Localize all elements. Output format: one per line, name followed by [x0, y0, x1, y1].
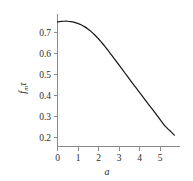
- y-tick-label: 0.5: [39, 70, 51, 80]
- x-tick-label: 3: [117, 153, 122, 163]
- chart-figure: 0.7 0.6 0.5 0.4 0.3 0.2 0 1 2 3 4 5 a fm…: [0, 0, 193, 181]
- line-chart: 0.7 0.6 0.5 0.4 0.3 0.2 0 1 2 3 4 5 a fm…: [0, 0, 193, 181]
- y-axis-title-tail: τ: [17, 82, 28, 86]
- x-tick-label: 5: [158, 153, 163, 163]
- y-tick-label: 0.6: [39, 49, 51, 59]
- y-tick-label: 0.2: [39, 133, 51, 143]
- x-tick-label: 1: [76, 153, 81, 163]
- y-tick-label: 0.4: [39, 91, 51, 101]
- y-tick-label: 0.3: [39, 112, 51, 122]
- y-tick-label: 0.7: [39, 28, 51, 38]
- x-tick-label: 2: [96, 153, 101, 163]
- x-tick-label: 4: [137, 153, 142, 163]
- x-axis-title: a: [105, 166, 110, 177]
- x-tick-label: 0: [55, 153, 60, 163]
